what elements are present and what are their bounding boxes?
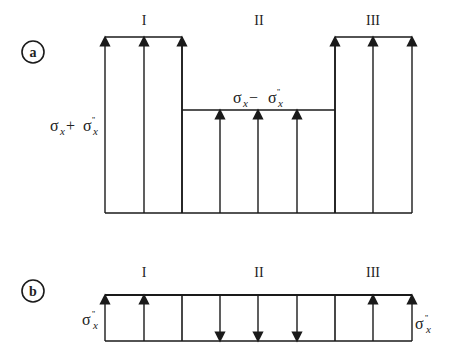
arrows-a — [105, 41, 412, 213]
zone-label-III-b: III — [366, 265, 380, 280]
zone-label-II: II — [254, 13, 264, 28]
zone-label-III: III — [366, 13, 380, 28]
svg-text:σ: σ — [233, 89, 242, 106]
svg-text:'': '' — [92, 309, 96, 319]
svg-text:+: + — [66, 117, 75, 134]
svg-text:'': '' — [277, 87, 281, 97]
svg-text:σ: σ — [83, 117, 92, 134]
svg-text:b: b — [29, 284, 37, 299]
zone-label-I-b: I — [142, 265, 147, 280]
svg-text:x: x — [277, 97, 283, 109]
svg-text:x: x — [59, 125, 65, 137]
panel-b: b I II III σ '' x σ '' x — [22, 265, 431, 341]
label-sum: σ x + σ '' x — [50, 115, 98, 137]
zone-label-I: I — [142, 13, 147, 28]
svg-text:'': '' — [425, 313, 429, 323]
svg-text:σ: σ — [268, 89, 277, 106]
badge-a: a — [22, 41, 44, 63]
svg-text:σ: σ — [415, 315, 424, 332]
svg-text:a: a — [30, 45, 37, 60]
svg-text:x: x — [425, 323, 431, 335]
zone-label-II-b: II — [254, 265, 264, 280]
svg-text:x: x — [242, 97, 248, 109]
arrows-b — [105, 295, 412, 341]
label-difference: σ x − σ '' x — [233, 87, 283, 109]
label-left-b: σ '' x — [82, 309, 98, 331]
svg-text:−: − — [249, 89, 258, 106]
svg-text:'': '' — [92, 115, 96, 125]
label-right-b: σ '' x — [415, 313, 431, 335]
svg-text:σ: σ — [50, 117, 59, 134]
stress-diagram: a I II III σ x — [0, 0, 453, 359]
panel-a: a I II III σ x — [22, 13, 412, 213]
svg-text:x: x — [92, 319, 98, 331]
badge-b: b — [22, 280, 44, 302]
svg-text:σ: σ — [82, 311, 91, 328]
svg-text:x: x — [92, 125, 98, 137]
